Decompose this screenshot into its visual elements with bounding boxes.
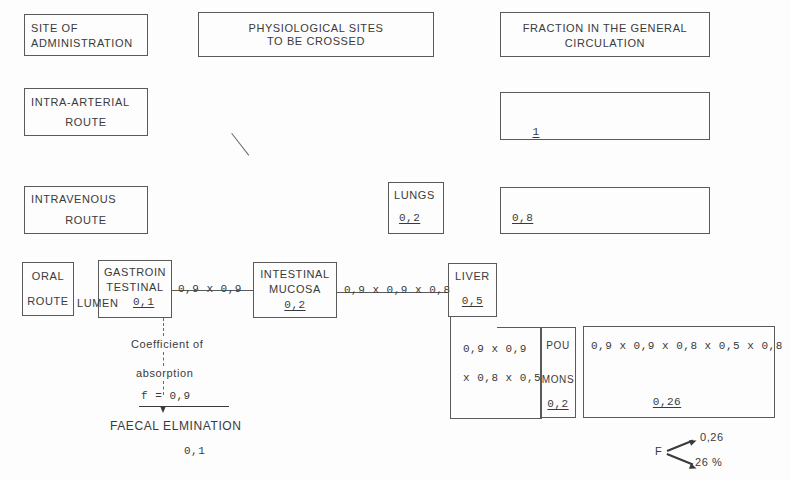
- site-gi-line2: TESTINAL: [98, 280, 172, 295]
- site-poumons-line2: MONS: [540, 372, 576, 387]
- site-gi-value: 0,1: [133, 296, 163, 308]
- site-lungs-label: LUNGS: [394, 188, 446, 203]
- site-poumons-value: 0,2: [540, 398, 576, 410]
- route-oral-line1: ORAL: [22, 269, 74, 284]
- faecal-elimination-arrowhead: [160, 406, 166, 413]
- header-physiological-sites-line2: TO BE CROSSED: [198, 34, 434, 49]
- route-intra-arterial-line2: ROUTE: [28, 115, 144, 130]
- site-lungs-value: 0,2: [399, 212, 435, 224]
- route-intravenous-line2: ROUTE: [28, 213, 144, 228]
- route-intra-arterial-line1: INTRA-ARTERIAL: [31, 95, 147, 110]
- absorption-coefficient-value: f = 0,9: [141, 390, 211, 402]
- header-fraction-line2: CIRCULATION: [500, 36, 710, 51]
- liver-output-box-left-edge: [450, 317, 451, 418]
- connector-gi-to-mucosa-label: 0,9 x 0,9: [178, 283, 258, 295]
- result-final-expression: 0,9 x 0,9 x 0,8 x 0,5 x 0,8: [591, 340, 776, 352]
- bioavailability-arrow-upper-head: [689, 438, 698, 446]
- site-mucosa-value: 0,2: [253, 299, 337, 311]
- result-final-value: 0,26: [583, 396, 751, 408]
- site-mucosa-line2: MUCOSA: [253, 282, 337, 297]
- liver-output-box-top-edge: [497, 327, 542, 328]
- site-liver-value: 0,5: [448, 295, 497, 307]
- header-site-of-administration-line2: ADMINISTRATION: [31, 36, 149, 51]
- fraction-value-intravenous: 0,8: [512, 212, 552, 224]
- header-fraction-line1: FRACTION IN THE GENERAL: [500, 21, 710, 36]
- site-liver-label: LIVER: [448, 269, 497, 284]
- absorption-dashed-line-segment-2: [163, 352, 164, 366]
- faecal-elimination-label: FAECAL ELMINATION: [110, 419, 280, 434]
- bioavailability-value-fraction: 0,26: [700, 430, 744, 445]
- fraction-value-intra-arterial: 1: [500, 126, 572, 138]
- header-site-of-administration-line1: SITE OF: [31, 21, 141, 36]
- absorption-coefficient-line2: absorption: [136, 366, 236, 381]
- route-intravenous-line1: INTRAVENOUS: [31, 192, 147, 207]
- fraction-box-intravenous: [500, 187, 710, 234]
- absorption-dashed-line-segment-1: [163, 318, 164, 336]
- faecal-elimination-value: 0,1: [184, 445, 224, 457]
- bioavailability-diagram: SITE OF ADMINISTRATION PHYSIOLOGICAL SIT…: [0, 0, 791, 481]
- bioavailability-arrow-lower-line: [667, 453, 694, 465]
- connector-mucosa-to-liver-label: 0,9 x 0,9 x 0,8: [344, 284, 454, 296]
- absorption-coefficient-line1: Coefficient of: [131, 337, 231, 352]
- site-mucosa-line1: INTESTINAL: [253, 267, 337, 282]
- decorative-diagonal-stroke: [231, 133, 249, 156]
- site-gi-line3: LUMEN: [77, 296, 137, 311]
- site-gi-line1: GASTROIN: [98, 265, 172, 280]
- site-poumons-line1: POU: [540, 338, 576, 353]
- route-oral-line2: ROUTE: [22, 294, 74, 309]
- absorption-coefficient-underline: [139, 406, 229, 407]
- liver-output-box-bottom-edge: [450, 418, 542, 419]
- bioavailability-value-percent: 26 %: [695, 455, 741, 470]
